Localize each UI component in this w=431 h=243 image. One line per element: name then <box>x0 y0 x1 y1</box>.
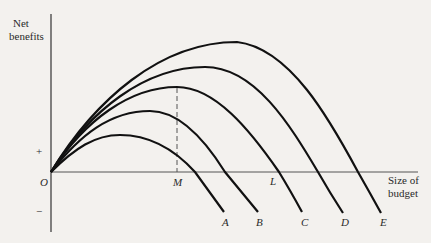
x-axis-label-line1: Size of <box>388 174 419 186</box>
origin-label: O <box>40 176 48 188</box>
curve-a-label: A <box>221 216 229 228</box>
x-axis-label-line2: budget <box>388 187 418 199</box>
y-axis-label-line1: Net <box>13 17 29 29</box>
l-label: L <box>269 175 276 187</box>
curve-e-label: E <box>379 216 387 228</box>
curve-c-label: C <box>301 216 309 228</box>
curve-d-label: D <box>340 216 349 228</box>
y-axis-label-line2: benefits <box>9 30 44 42</box>
curve-b-label: B <box>256 216 263 228</box>
plus-sign: + <box>36 145 42 157</box>
curve-a <box>51 135 224 212</box>
minus-sign: − <box>36 205 42 217</box>
net-benefits-chart: Net benefits + − O M L Size of budget A … <box>0 0 431 243</box>
m-label: M <box>172 176 183 188</box>
curve-b <box>51 111 258 212</box>
